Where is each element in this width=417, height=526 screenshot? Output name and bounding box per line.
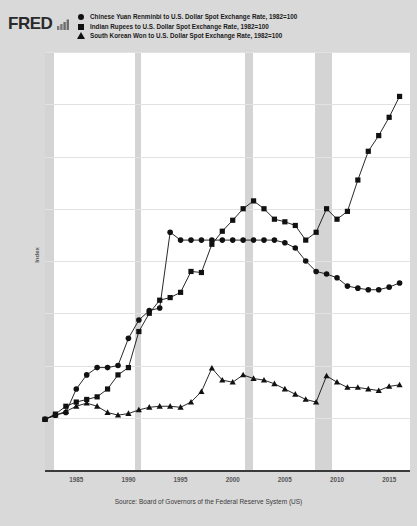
data-point	[365, 287, 371, 293]
data-point	[126, 365, 131, 370]
data-point	[167, 229, 173, 235]
mini-bar-chart-icon	[57, 19, 70, 30]
chart-header: FRED Chinese Yuan Renminbi to U.S. Dolla…	[0, 0, 417, 46]
data-point	[261, 237, 267, 243]
data-point	[282, 219, 287, 224]
data-point	[293, 223, 298, 228]
data-point	[147, 311, 152, 316]
data-point	[314, 230, 319, 235]
data-point	[345, 283, 351, 289]
data-point	[324, 206, 329, 211]
data-point	[115, 363, 121, 369]
data-point	[251, 198, 256, 203]
data-point	[136, 317, 142, 323]
data-point	[386, 284, 392, 290]
data-point	[199, 237, 205, 243]
data-point	[115, 372, 120, 377]
series-layer	[45, 52, 410, 470]
data-point	[230, 218, 235, 223]
data-point	[126, 336, 132, 342]
data-point	[63, 404, 68, 409]
data-point	[209, 242, 214, 247]
data-point	[397, 280, 403, 286]
data-point	[334, 217, 339, 222]
data-point	[376, 133, 381, 138]
legend-label-yuan: Chinese Yuan Renminbi to U.S. Dollar Spo…	[90, 12, 297, 22]
data-point	[188, 237, 194, 243]
data-point	[241, 206, 246, 211]
data-point	[292, 245, 298, 251]
data-point	[355, 285, 361, 291]
data-point	[334, 275, 340, 281]
data-point	[94, 365, 100, 371]
data-point	[230, 237, 236, 243]
x-tick-label: 1995	[161, 476, 201, 483]
data-point	[397, 94, 402, 99]
data-point	[198, 388, 204, 394]
data-point	[387, 115, 392, 120]
x-tick-label: 1990	[108, 476, 148, 483]
legend-item-yuan: Chinese Yuan Renminbi to U.S. Dollar Spo…	[76, 12, 297, 22]
series-line	[45, 96, 400, 419]
x-tick-label: 2010	[317, 476, 357, 483]
data-point	[272, 217, 277, 222]
data-point	[105, 365, 111, 371]
y-axis-label: Index	[34, 225, 40, 285]
series-line	[45, 232, 400, 419]
data-point	[376, 287, 382, 293]
legend-item-won: South Korean Won to U.S. Dollar Spot Exc…	[76, 31, 297, 41]
series-triangle	[42, 365, 403, 422]
x-tick-label: 1985	[56, 476, 96, 483]
data-point	[313, 269, 319, 275]
data-point	[355, 177, 360, 182]
data-point	[261, 206, 266, 211]
data-point	[303, 238, 308, 243]
data-point	[251, 237, 257, 243]
x-axis-line	[45, 470, 410, 472]
data-point	[303, 396, 309, 402]
data-point	[104, 409, 110, 415]
data-point	[292, 391, 298, 397]
data-point	[95, 394, 100, 399]
data-point	[272, 237, 278, 243]
legend-label-rupee: Indian Rupees to U.S. Dollar Spot Exchan…	[90, 22, 269, 32]
data-point	[136, 329, 141, 334]
legend-label-won: South Korean Won to U.S. Dollar Spot Exc…	[90, 31, 282, 41]
series-circle	[42, 229, 402, 422]
data-point	[178, 290, 183, 295]
data-point	[188, 269, 193, 274]
data-point	[366, 149, 371, 154]
chart-legend: Chinese Yuan Renminbi to U.S. Dollar Spo…	[76, 12, 297, 41]
fred-logo: FRED	[8, 14, 52, 34]
x-tick-label: 2015	[369, 476, 409, 483]
data-point	[282, 240, 288, 246]
data-point	[282, 386, 288, 392]
series-square	[42, 94, 402, 422]
data-point	[220, 229, 225, 234]
data-point	[396, 382, 402, 388]
data-point	[323, 373, 329, 379]
chart-page: FRED Chinese Yuan Renminbi to U.S. Dolla…	[0, 0, 417, 526]
data-point	[324, 271, 330, 277]
data-point	[334, 379, 340, 385]
data-point	[303, 258, 309, 264]
x-tick-label: 2000	[213, 476, 253, 483]
source-caption: Source: Board of Governors of the Federa…	[0, 498, 417, 505]
data-point	[209, 365, 215, 371]
data-point	[240, 372, 246, 378]
plot-area: 0100200300400500600700800 19851990199520…	[45, 52, 410, 470]
data-point	[157, 305, 163, 311]
x-tick-label: 2005	[265, 476, 305, 483]
data-point	[199, 270, 204, 275]
data-point	[73, 386, 79, 392]
data-point	[240, 237, 246, 243]
legend-triangle-marker-icon	[76, 31, 87, 40]
data-point	[105, 386, 110, 391]
legend-square-marker-icon	[76, 22, 87, 31]
legend-item-rupee: Indian Rupees to U.S. Dollar Spot Exchan…	[76, 22, 297, 32]
data-point	[168, 295, 173, 300]
legend-circle-marker-icon	[76, 12, 87, 21]
data-point	[84, 372, 90, 378]
data-point	[219, 237, 225, 243]
series-line	[45, 368, 400, 419]
